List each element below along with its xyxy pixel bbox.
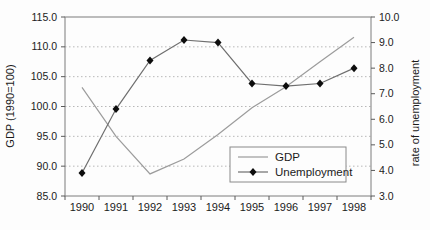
y-axis-right-tick-labels: 3.04.05.06.07.08.09.010.0 xyxy=(379,11,400,202)
y-axis-left-tick-labels: 85.090.095.0100.0105.0110.0115.0 xyxy=(31,11,57,202)
y-axis-right-tick-label: 3.0 xyxy=(379,190,394,202)
x-axis-tick-label: 1994 xyxy=(206,201,230,213)
chart-canvas: 85.090.095.0100.0105.0110.0115.0 3.04.05… xyxy=(0,0,430,230)
y-axis-left-tick-label: 105.0 xyxy=(31,70,57,82)
y-axis-left-tick-label: 85.0 xyxy=(37,190,58,202)
left-axis-title: GDP (1990=100) xyxy=(4,64,16,147)
y-axis-left-tick-label: 115.0 xyxy=(32,11,58,23)
x-axis-tick-label: 1997 xyxy=(308,201,332,213)
x-axis-tick-label: 1996 xyxy=(274,201,298,213)
y-axis-left-tick-label: 110.0 xyxy=(32,40,58,52)
y-axis-right-tick-label: 10.0 xyxy=(379,11,400,23)
y-axis-left-tick-label: 100.0 xyxy=(31,100,57,112)
x-axis-tick-label: 1993 xyxy=(172,201,196,213)
x-axis-tick-label: 1992 xyxy=(138,201,162,213)
x-axis-tick-label: 1990 xyxy=(70,201,94,213)
y-axis-right-tick-label: 8.0 xyxy=(379,62,394,74)
x-axis-tick-labels: 199019911992199319941995199619971998 xyxy=(70,201,366,213)
x-axis-tick-label: 1998 xyxy=(342,201,366,213)
y-axis-left-tick-label: 90.0 xyxy=(37,160,58,172)
legend-label-unemployment: Unemployment xyxy=(275,166,353,178)
x-axis-tick-label: 1991 xyxy=(104,201,128,213)
x-axis-tick-label: 1995 xyxy=(240,201,264,213)
gdp-unemployment-chart: 85.090.095.0100.0105.0110.0115.0 3.04.05… xyxy=(0,0,430,230)
y-axis-right-tick-label: 4.0 xyxy=(379,164,394,176)
y-axis-right-tick-label: 6.0 xyxy=(379,113,394,125)
y-axis-right-tick-label: 7.0 xyxy=(379,87,394,99)
legend-label-gdp: GDP xyxy=(275,151,300,163)
y-axis-right-tick-label: 9.0 xyxy=(379,36,394,48)
legend: GDP Unemployment xyxy=(230,147,353,182)
y-axis-left-tick-label: 95.0 xyxy=(37,130,58,142)
y-axis-right-tick-label: 5.0 xyxy=(379,138,394,150)
right-axis-title: rate of unemployment xyxy=(409,60,421,166)
